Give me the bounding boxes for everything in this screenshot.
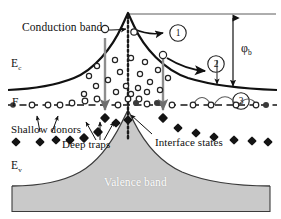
phi-subscript: b	[248, 48, 252, 57]
ev-label: Ev	[11, 160, 22, 174]
deep-traps-label: Deep traps	[62, 139, 110, 150]
band-diagram-figure: Conduction band Ec F Ev φb Shallow donor…	[0, 0, 281, 219]
interface-states-label: Interface states	[155, 137, 223, 148]
mechanism-1-label: 1	[171, 29, 185, 39]
phi-symbol: φ	[241, 41, 248, 55]
mechanism-3-label: 3	[234, 97, 248, 107]
ev-subscript: v	[18, 166, 22, 174]
ec-label: Ec	[11, 58, 21, 72]
valence-band-label: Valence band	[104, 177, 167, 189]
shallow-donors-label: Shallow donors	[11, 124, 81, 135]
fermi-label: F	[12, 97, 19, 109]
mechanism-2-label: 2	[209, 60, 223, 70]
barrier-height-label: φb	[241, 42, 252, 57]
ec-subscript: c	[18, 64, 21, 72]
conduction-band-label: Conduction band	[22, 22, 102, 34]
